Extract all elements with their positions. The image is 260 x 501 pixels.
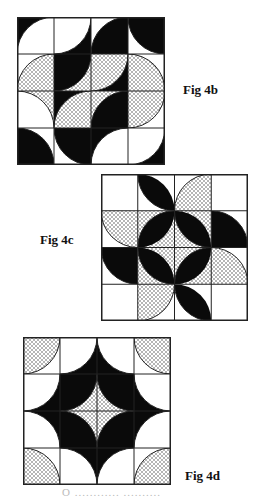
fig4b-block [17,17,165,165]
fig4d-cell-0-0 [23,337,60,374]
fig4d-block [23,337,171,485]
cut-off-caption: O ............ .......... [62,486,161,498]
fig4d-cell-0-3 [134,337,171,374]
fig4c-cell-0-3 [211,174,248,211]
fig4b-label: Fig 4b [183,82,218,98]
fig4c-block [101,174,248,321]
fig4c-label: Fig 4c [40,232,74,248]
fig4b-cell-0-3 [128,17,165,54]
fig4c-cell-3-0 [101,284,138,321]
fig4d-cell-3-0 [23,448,60,485]
fig4b-cell-3-0 [17,128,54,165]
fig4c-cell-0-0 [101,174,138,211]
fig4d-cell-3-3 [134,448,171,485]
fig4d-label: Fig 4d [185,468,220,484]
fig4c-cell-3-3 [211,284,248,321]
